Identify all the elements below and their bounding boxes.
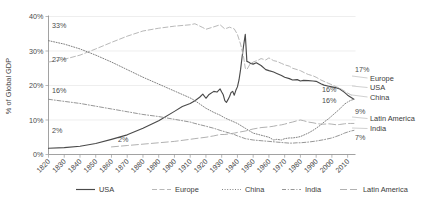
x-tick-label: 1900 bbox=[160, 157, 178, 175]
series-line-india bbox=[49, 99, 354, 143]
annotation-leader-latin-america bbox=[352, 117, 368, 119]
x-tick-label: 1910 bbox=[176, 157, 194, 175]
x-tick-label: 1980 bbox=[286, 157, 304, 175]
legend-label-china: China bbox=[245, 185, 265, 194]
annotation-left-india: 16% bbox=[52, 86, 67, 95]
x-tick-label: 1860 bbox=[97, 157, 115, 175]
legend-label-europe: Europe bbox=[175, 185, 199, 194]
annotation-label-china: China bbox=[370, 93, 390, 102]
y-tick-label: 0% bbox=[33, 150, 44, 159]
legend-label-india: India bbox=[305, 185, 322, 194]
series-line-latin-america bbox=[111, 120, 353, 147]
y-axis: 0%10%20%30%40% bbox=[29, 12, 48, 159]
series-lines bbox=[49, 24, 354, 149]
annotation-left-usa: 2% bbox=[52, 126, 63, 135]
x-tick-label: 1920 bbox=[192, 157, 210, 175]
annotation-left-europe: 27% bbox=[52, 55, 67, 64]
x-tick-label: 1970 bbox=[271, 157, 289, 175]
x-tick-label: 1880 bbox=[129, 157, 147, 175]
x-tick-label: 1850 bbox=[82, 157, 100, 175]
inner-annotations: 2% bbox=[118, 135, 129, 144]
annotation-label-usa: USA bbox=[370, 83, 385, 92]
legend-label-usa: USA bbox=[99, 185, 114, 194]
annotation-leader-china bbox=[352, 95, 368, 97]
left-annotations: 33%27%16%2% bbox=[52, 21, 67, 135]
x-tick-label: 1960 bbox=[255, 157, 273, 175]
y-tick-label: 30% bbox=[29, 47, 44, 56]
annotation-value-china: 16% bbox=[322, 96, 337, 105]
x-tick-label: 1890 bbox=[145, 157, 163, 175]
annotation-value-india: 7% bbox=[355, 133, 366, 142]
gdp-share-line-chart: 0%10%20%30%40% 1820183018401850186018701… bbox=[0, 0, 423, 203]
annotation-value-latin-america: 9% bbox=[355, 107, 366, 116]
annotation-leader-usa bbox=[352, 86, 368, 88]
annotation-leader-india bbox=[352, 128, 368, 129]
chart-container: 0%10%20%30%40% 1820183018401850186018701… bbox=[0, 0, 423, 203]
x-tick-label: 1990 bbox=[302, 157, 320, 175]
annotation-leader-europe bbox=[352, 76, 368, 78]
annotation-value-usa: 16% bbox=[322, 85, 337, 94]
y-axis-title: % of Global GDP bbox=[4, 58, 13, 114]
x-tick-label: 2000 bbox=[318, 157, 336, 175]
annotation-inner-latin-america: 2% bbox=[118, 135, 129, 144]
x-tick-label: 1930 bbox=[208, 157, 226, 175]
annotation-label-india: India bbox=[370, 124, 387, 133]
series-line-usa bbox=[49, 34, 354, 148]
x-tick-label: 1840 bbox=[66, 157, 84, 175]
legend-label-latin-america: Latin America bbox=[363, 185, 409, 194]
annotation-value-europe: 17% bbox=[355, 65, 370, 74]
y-tick-label: 10% bbox=[29, 116, 44, 125]
x-tick-label: 1940 bbox=[223, 157, 241, 175]
right-annotations: 17%Europe16%USA16%China9%Latin America7%… bbox=[322, 65, 416, 142]
grid-lines bbox=[49, 17, 356, 121]
x-tick-label: 2010 bbox=[334, 157, 352, 175]
x-tick-label: 1870 bbox=[113, 157, 131, 175]
x-tick-label: 1830 bbox=[50, 157, 68, 175]
x-axis: 1820183018401850186018701880189019001910… bbox=[34, 155, 355, 175]
annotation-left-china: 33% bbox=[52, 21, 67, 30]
chart-legend: USAEuropeChinaIndiaLatin America bbox=[76, 185, 409, 194]
y-tick-label: 20% bbox=[29, 81, 44, 90]
x-tick-label: 1820 bbox=[34, 157, 52, 175]
series-line-europe bbox=[49, 24, 354, 96]
annotation-label-europe: Europe bbox=[370, 74, 394, 83]
x-tick-label: 1950 bbox=[239, 157, 257, 175]
y-tick-label: 40% bbox=[29, 12, 44, 21]
annotation-label-latin-america: Latin America bbox=[370, 114, 416, 123]
